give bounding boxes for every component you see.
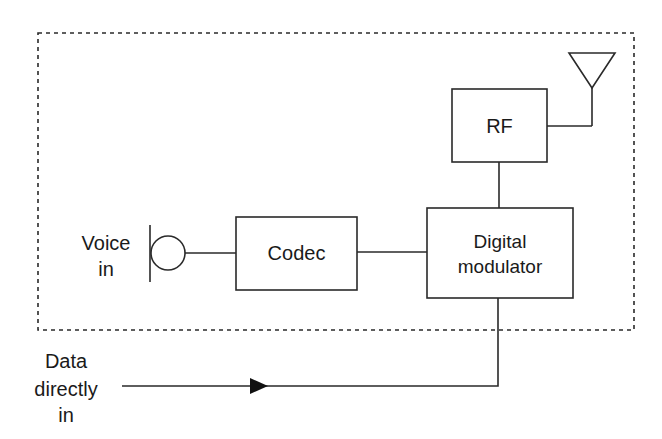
voice-in-label-line1: Voice (82, 232, 131, 254)
data-input-wire (122, 298, 498, 394)
data-in-label-line2: directly (34, 378, 97, 400)
arrowhead-icon (250, 378, 268, 394)
data-in-label-line1: Data (45, 350, 88, 372)
codec-label: Codec (268, 242, 326, 264)
antenna-icon (547, 53, 615, 126)
digital-modulator-block: Digital modulator (427, 208, 573, 298)
modulator-label-line2: modulator (458, 256, 543, 277)
rf-label: RF (486, 115, 513, 137)
data-in-label-line3: in (58, 404, 74, 426)
rf-block: RF (452, 89, 547, 162)
codec-block: Codec (236, 217, 357, 290)
modulator-label-line1: Digital (474, 231, 527, 252)
microphone-icon (150, 225, 236, 282)
voice-in-label-line2: in (98, 258, 114, 280)
block-diagram: RF Digital modulator Codec Voice in Data… (0, 0, 662, 439)
